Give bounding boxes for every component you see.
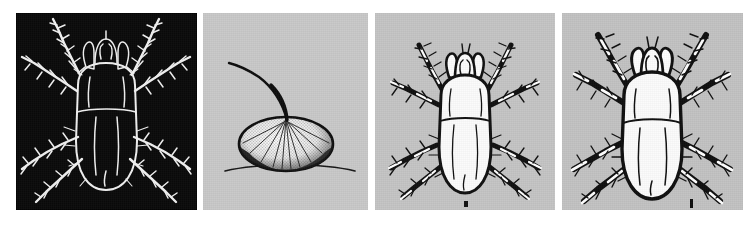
negative-field: [16, 13, 197, 210]
panel-stalked-egg: [203, 13, 368, 210]
panel-mite-positive-large: [562, 13, 743, 210]
scale-bar: [464, 201, 468, 207]
scale-bar: [690, 199, 693, 208]
stalked-egg-illustration: [203, 13, 368, 210]
mite-positive-small-illustration: [375, 13, 555, 210]
mite-negative-illustration: [16, 13, 197, 210]
panel-mite-negative-dorsal: [16, 13, 197, 210]
idiosoma-outline: [622, 72, 682, 199]
panel-mite-positive-small: [375, 13, 555, 210]
mite-positive-large-illustration: [562, 13, 743, 210]
rostrum-seta-left: [462, 44, 463, 53]
figure-plate: [0, 0, 743, 225]
